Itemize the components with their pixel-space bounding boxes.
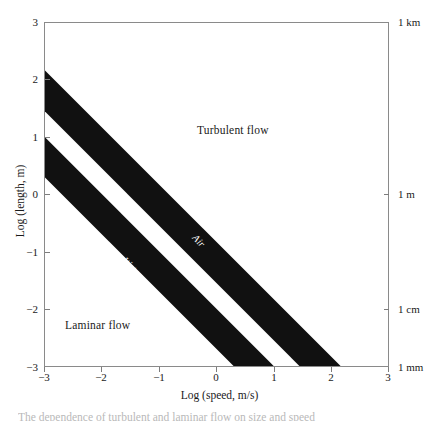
y-tick-label: −2: [16, 303, 38, 315]
turbulent-flow-label: Turbulent flow: [197, 124, 269, 136]
x-tick-label: 0: [213, 371, 219, 383]
y-tick-mark: [45, 194, 50, 195]
laminar-flow-label: Laminar flow: [65, 319, 130, 331]
y-tick-label: 3: [20, 16, 38, 28]
right-axis-label-km: 1 km: [398, 16, 420, 28]
y-tick-mark: [45, 309, 50, 310]
right-axis-label-m: 1 m: [398, 188, 415, 200]
figure-caption: The dependence of turbulent and laminar …: [18, 411, 428, 421]
y-tick-mark: [45, 137, 50, 138]
x-axis-title: Log (speed, m/s): [0, 389, 439, 401]
flow-bands-svg: [45, 23, 388, 366]
y-axis-title: Log (length, m): [14, 121, 26, 281]
x-tick-label: −1: [153, 371, 165, 383]
right-axis-label-cm: 1 cm: [398, 303, 420, 315]
y-tick-mark: [45, 79, 50, 80]
y-tick-mark: [45, 252, 50, 253]
x-tick-label: −2: [95, 371, 107, 383]
x-tick-label: −3: [38, 371, 50, 383]
y-tick-label: −3: [16, 361, 38, 373]
y-tick-label: 2: [20, 73, 38, 85]
x-tick-label: 2: [328, 371, 334, 383]
x-tick-label: 1: [271, 371, 277, 383]
right-tick-mark: [384, 309, 389, 310]
right-tick-mark: [384, 194, 389, 195]
plot-area: Turbulent flow Laminar flow Air Water: [44, 22, 389, 367]
figure-container: Turbulent flow Laminar flow Air Water −3…: [0, 0, 439, 421]
right-axis-label-mm: 1 mm: [398, 361, 423, 373]
x-tick-label: 3: [385, 371, 391, 383]
